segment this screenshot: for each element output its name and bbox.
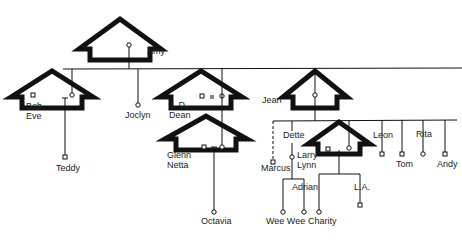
label-eve: Eve <box>26 111 42 122</box>
label-andy: Andy <box>437 159 458 170</box>
house-bob-eve <box>11 71 93 108</box>
label-marcus: Marcus <box>261 163 291 174</box>
label-leon: Leon <box>373 130 393 141</box>
label-lynn: Lynn <box>297 160 316 171</box>
label-weewee: Wee Wee <box>266 216 305 227</box>
label-amy: Amy <box>147 46 165 57</box>
label-dette: Dette <box>283 130 305 141</box>
genogram-canvas <box>0 0 462 240</box>
label-joclyn: Joclyn <box>125 110 151 121</box>
label-octavia: Octavia <box>201 216 232 227</box>
label-teddy: Teddy <box>56 163 80 174</box>
label-la: L.A. <box>354 182 370 193</box>
label-dean: Dean <box>169 110 191 121</box>
label-charity: Charity <box>308 216 337 227</box>
label-rita: Rita <box>416 129 432 140</box>
label-tom: Tom <box>396 159 413 170</box>
label-netta: Netta <box>167 160 189 171</box>
label-jean: Jean <box>262 95 282 106</box>
label-adrian: Adrian <box>292 182 318 193</box>
